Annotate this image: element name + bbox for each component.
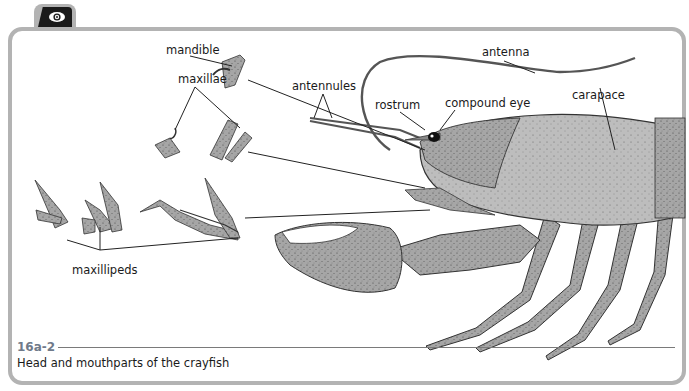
figure-number: 16a-2	[17, 340, 55, 354]
label-rostrum: rostrum	[375, 100, 420, 112]
label-antenna: antenna	[482, 47, 530, 59]
label-antennules: antennules	[292, 81, 356, 93]
label-maxillae: maxillae	[178, 74, 227, 86]
label-mandible: mandible	[166, 45, 220, 57]
label-carapace: carapace	[572, 90, 625, 102]
crayfish-illustration	[0, 0, 689, 391]
figure-caption: Head and mouthparts of the crayfish	[17, 356, 229, 370]
label-maxillipeds: maxillipeds	[72, 265, 138, 277]
caption-divider	[58, 347, 675, 348]
label-compound-eye: compound eye	[445, 98, 530, 110]
